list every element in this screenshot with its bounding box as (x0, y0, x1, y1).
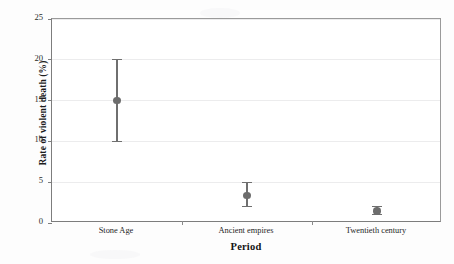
x-tick-mark (312, 221, 313, 225)
x-tick-label: Stone Age (56, 226, 176, 235)
y-tick-label: 20 (3, 53, 43, 63)
x-axis-title: Period (51, 241, 441, 252)
data-point-marker (113, 97, 121, 105)
y-tick-label: 25 (3, 12, 43, 22)
x-tick-mark (182, 221, 183, 225)
y-tick-label: 5 (3, 175, 43, 185)
data-point-group (107, 19, 127, 223)
data-point-marker (243, 192, 251, 200)
y-tick-label: 15 (3, 94, 43, 104)
error-bar-cap-upper (242, 182, 252, 183)
y-tick-mark (48, 19, 52, 20)
x-tick-label: Ancient empires (186, 226, 306, 235)
data-point-group (237, 19, 257, 223)
y-tick-mark (48, 59, 52, 60)
y-tick-label: 10 (3, 134, 43, 144)
error-bar-cap-lower (242, 206, 252, 207)
data-point-group (367, 19, 387, 223)
y-tick-mark (48, 182, 52, 183)
error-bar-cap-lower (112, 141, 122, 142)
y-tick-mark (48, 141, 52, 142)
scan-artifact (200, 8, 240, 18)
y-tick-mark (48, 223, 52, 224)
figure-canvas: Rate of violent death (%) Period 0510152… (0, 0, 454, 264)
y-tick-mark (48, 100, 52, 101)
plot-area (51, 18, 441, 222)
data-point-marker (373, 207, 381, 215)
y-tick-label: 0 (3, 216, 43, 226)
x-tick-label: Twentieth century (316, 226, 436, 235)
error-bar-cap-upper (112, 59, 122, 60)
